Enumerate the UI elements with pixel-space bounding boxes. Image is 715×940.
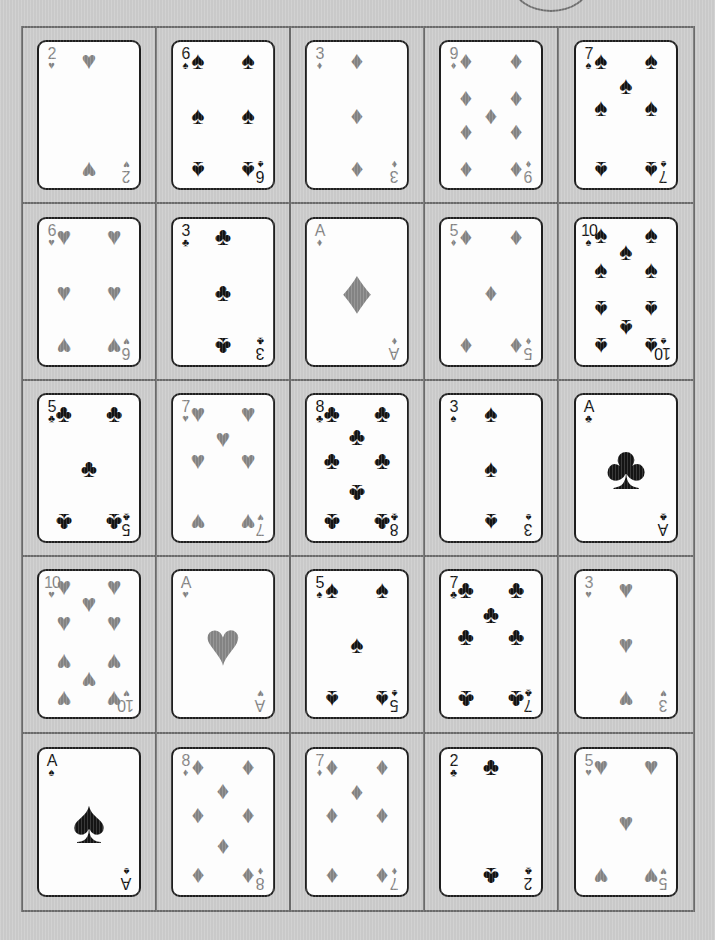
card-cell[interactable]: 3♣3♣♣♣♣ (157, 204, 291, 380)
playing-card[interactable]: 6♥6♥♥♥♥♥♥♥ (37, 217, 141, 367)
card-corner-index-br: 3♠ (521, 513, 536, 537)
card-cell[interactable]: 2♣2♣♣♣ (425, 734, 559, 910)
hearts-pip-icon: ♥ (53, 651, 75, 675)
card-cell[interactable]: 9♦9♦♦♦♦♦♦♦♦♦♦ (425, 28, 559, 204)
card-cell[interactable]: 5♥5♥♥♥♥♥♥ (559, 734, 693, 910)
card-corner-index-tl: 2♥ (44, 46, 59, 70)
hearts-pip-icon: ♥ (78, 48, 100, 72)
spades-pip-icon: ♠ (237, 159, 259, 183)
card-cell[interactable]: 3♠3♠♠♠♠ (425, 381, 559, 557)
card-cell[interactable]: 6♠6♠♠♠♠♠♠♠ (157, 28, 291, 204)
spades-pip-icon: ♠ (187, 159, 209, 183)
clubs-pip-icon: ♣ (455, 624, 477, 648)
playing-card[interactable]: 8♣8♣♣♣♣♣♣♣♣♣ (305, 393, 409, 543)
card-pip-field: ♣♣♣♣♣♣♣♣ (327, 402, 387, 534)
card-cell[interactable]: 3♥3♥♥♥♥ (559, 557, 693, 733)
clubs-icon: ♣ (178, 237, 193, 247)
card-cell[interactable]: 5♦5♦♦♦♦♦♦ (425, 204, 559, 380)
spades-pip-icon: ♠ (640, 48, 662, 72)
card-cell[interactable]: 8♣8♣♣♣♣♣♣♣♣♣ (291, 381, 425, 557)
playing-card[interactable]: 3♣3♣♣♣♣ (171, 217, 275, 367)
card-pip-field: ♣♣♣♣♣♣♣ (461, 578, 521, 710)
card-cell[interactable]: A♠A♠♠ (23, 734, 157, 910)
diamonds-pip-icon: ♦ (455, 224, 477, 248)
playing-card[interactable]: 8♦8♦♦♦♦♦♦♦♦♦ (171, 747, 275, 897)
hearts-pip-icon: ♥ (103, 224, 125, 248)
card-cell[interactable]: 10♠10♠♠♠♠♠♠♠♠♠♠♠ (559, 204, 693, 380)
card-cell[interactable]: 7♦7♦♦♦♦♦♦♦♦ (291, 734, 425, 910)
diamonds-pip-icon: ♦ (371, 754, 393, 778)
spades-pip-icon: ♠ (480, 511, 502, 535)
playing-card[interactable]: 3♥3♥♥♥♥ (574, 569, 678, 719)
card-cell[interactable]: 8♦8♦♦♦♦♦♦♦♦♦ (157, 734, 291, 910)
hearts-pip-icon: ♥ (78, 159, 100, 183)
card-grid: 2♥2♥♥♥6♠6♠♠♠♠♠♠♠3♦3♦♦♦♦9♦9♦♦♦♦♦♦♦♦♦♦7♠7♠… (23, 28, 693, 910)
card-corner-index-br: A♦ (387, 337, 402, 361)
hearts-pip-icon: ♥ (53, 335, 75, 359)
playing-card[interactable]: 5♣5♣♣♣♣♣♣ (37, 393, 141, 543)
clubs-icon: ♣ (446, 767, 461, 777)
hearts-icon: ♥ (581, 589, 596, 599)
spades-pip-icon: ♠ (590, 95, 612, 119)
playing-card[interactable]: 5♥5♥♥♥♥♥♥ (574, 747, 678, 897)
card-corner-index-br: A♠ (119, 867, 134, 891)
playing-card[interactable]: 9♦9♦♦♦♦♦♦♦♦♦♦ (439, 40, 543, 190)
card-cell[interactable]: A♦A♦♦ (291, 204, 425, 380)
spades-pip-icon: ♠ (371, 577, 393, 601)
card-cell[interactable]: A♣A♣♣ (559, 381, 693, 557)
clubs-pip-icon: ♣ (321, 511, 343, 535)
hearts-pip-icon: ♥ (103, 651, 125, 675)
diamonds-pip-icon: ♦ (346, 779, 368, 803)
card-cell[interactable]: 5♣5♣♣♣♣♣♣ (23, 381, 157, 557)
card-rank: 2 (521, 876, 536, 891)
spades-pip-icon: ♠ (346, 632, 368, 656)
card-pip-field: ♥ (193, 578, 253, 710)
card-pip-field: ♠ (59, 756, 119, 888)
playing-card[interactable]: 7♣7♣♣♣♣♣♣♣♣ (439, 569, 543, 719)
playing-card[interactable]: 5♠5♠♠♠♠♠♠ (305, 569, 409, 719)
playing-card[interactable]: 2♥2♥♥♥ (37, 40, 141, 190)
card-cell[interactable]: A♥A♥♥ (157, 557, 291, 733)
card-cell[interactable]: 2♥2♥♥♥ (23, 28, 157, 204)
hearts-icon: ♥ (44, 60, 59, 70)
card-pip-field: ♥♥ (59, 49, 119, 181)
card-cell[interactable]: 6♥6♥♥♥♥♥♥♥ (23, 204, 157, 380)
card-corner-index-br: 3♣ (253, 337, 268, 361)
card-cell[interactable]: 7♣7♣♣♣♣♣♣♣♣ (425, 557, 559, 733)
diamonds-pip-icon: ♦ (455, 122, 477, 146)
playing-card[interactable]: 10♥10♥♥♥♥♥♥♥♥♥♥♥ (37, 569, 141, 719)
hearts-pip-icon: ♥ (187, 448, 209, 472)
card-rank: A (253, 698, 268, 713)
playing-card[interactable]: A♦A♦♦ (305, 217, 409, 367)
playing-card[interactable]: A♥A♥♥ (171, 569, 275, 719)
playing-card[interactable]: 6♠6♠♠♠♠♠♠♠ (171, 40, 275, 190)
playing-card[interactable]: 7♦7♦♦♦♦♦♦♦♦ (305, 747, 409, 897)
card-corner-index-tl: 2♣ (446, 753, 461, 777)
card-pip-field: ♣ (596, 402, 656, 534)
playing-card[interactable]: 10♠10♠♠♠♠♠♠♠♠♠♠♠ (574, 217, 678, 367)
card-cell[interactable]: 7♥7♥♥♥♥♥♥♥♥ (157, 381, 291, 557)
card-pip-field: ♣♣♣♣♣ (59, 402, 119, 534)
playing-card[interactable]: 5♦5♦♦♦♦♦♦ (439, 217, 543, 367)
hearts-pip-icon: ♥ (103, 280, 125, 304)
playing-card[interactable]: 3♠3♠♠♠♠ (439, 393, 543, 543)
diamonds-pip-icon: ♦ (455, 48, 477, 72)
card-cell[interactable]: 10♥10♥♥♥♥♥♥♥♥♥♥♥ (23, 557, 157, 733)
card-pip-field: ♦♦♦♦♦♦♦♦ (193, 756, 253, 888)
diamonds-pip-icon: ♦ (505, 48, 527, 72)
spades-pip-icon: ♠ (640, 95, 662, 119)
card-cell[interactable]: 3♦3♦♦♦♦ (291, 28, 425, 204)
playing-card[interactable]: A♣A♣♣ (574, 393, 678, 543)
card-cell[interactable]: 7♠7♠♠♠♠♠♠♠♠ (559, 28, 693, 204)
playing-card[interactable]: 2♣2♣♣♣ (439, 747, 543, 897)
playing-card[interactable]: 3♦3♦♦♦♦ (305, 40, 409, 190)
spades-pip-icon: ♠ (640, 257, 662, 281)
playing-card[interactable]: 7♠7♠♠♠♠♠♠♠♠ (574, 40, 678, 190)
playing-card[interactable]: A♠A♠♠ (37, 747, 141, 897)
card-pip-field: ♦ (327, 226, 387, 358)
card-cell[interactable]: 5♠5♠♠♠♠♠♠ (291, 557, 425, 733)
clubs-pip-icon: ♣ (321, 401, 343, 425)
clubs-pip-icon: ♣ (505, 577, 527, 601)
diamonds-pip-icon: ♦ (505, 122, 527, 146)
playing-card[interactable]: 7♥7♥♥♥♥♥♥♥♥ (171, 393, 275, 543)
